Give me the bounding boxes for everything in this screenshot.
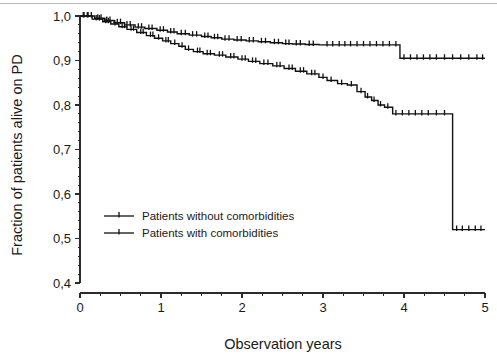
y-axis-label: Fraction of patients alive on PD <box>9 54 25 256</box>
kaplan-meier-chart: Fraction of patients alive on PD Observa… <box>0 0 497 356</box>
y-tick-label: 0,6 <box>53 187 71 202</box>
chart-legend: Patients without comorbiditiesPatients w… <box>104 210 294 239</box>
y-tick-label: 0,7 <box>53 142 71 157</box>
km-curve-line <box>80 16 485 230</box>
y-tick-label: 0,5 <box>53 231 71 246</box>
legend-entry-label: Patients without comorbidities <box>142 210 294 222</box>
y-axis: 0,40,50,60,70,80,91,0 <box>53 9 80 291</box>
x-tick-label: 3 <box>319 300 326 315</box>
y-tick-label: 0,8 <box>53 98 71 113</box>
figure-container: Fraction of patients alive on PD Observa… <box>0 0 497 356</box>
km-series <box>80 12 485 60</box>
series-group <box>80 12 485 231</box>
x-axis-label: Observation years <box>224 336 342 352</box>
x-tick-label: 1 <box>157 300 164 315</box>
y-tick-label: 0,4 <box>53 276 71 291</box>
y-tick-label: 0,9 <box>53 53 71 68</box>
km-curve-line <box>80 16 485 58</box>
y-tick-label: 1,0 <box>53 9 71 24</box>
legend-entry-label: Patients with comorbidities <box>142 227 278 239</box>
km-series <box>80 12 485 231</box>
x-axis: 012345 <box>76 293 488 315</box>
x-tick-label: 5 <box>481 300 488 315</box>
x-tick-label: 4 <box>400 300 407 315</box>
x-tick-label: 2 <box>238 300 245 315</box>
x-tick-label: 0 <box>76 300 83 315</box>
